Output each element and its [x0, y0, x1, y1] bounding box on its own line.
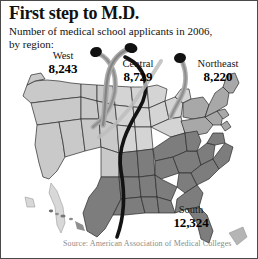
region-value-south: 12,324 [161, 216, 221, 229]
region-label-south: South 12,324 [161, 205, 221, 229]
region-label-northeast: Northeast 8,220 [187, 59, 249, 83]
infographic-figure: First step to M.D. Number of medical sch… [0, 0, 258, 259]
region-value-west: 8,243 [35, 62, 91, 75]
region-label-central: Central 8,729 [111, 59, 165, 83]
region-label-west: West 8,243 [35, 51, 91, 75]
region-value-central: 8,729 [111, 70, 165, 83]
region-value-northeast: 8,220 [187, 70, 249, 83]
source-attribution: Source: American Association of Medical … [63, 239, 232, 248]
